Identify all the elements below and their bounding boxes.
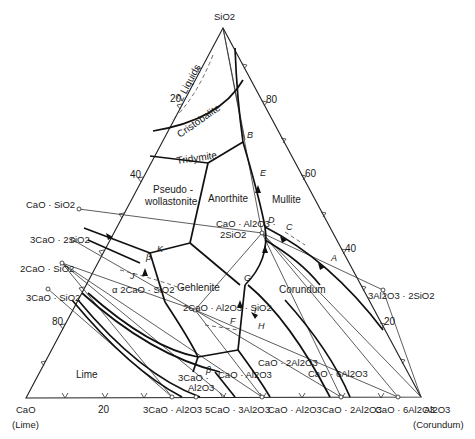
field-gehlenite-label: Gehlenite xyxy=(177,282,220,293)
point-f-label: F xyxy=(230,316,236,326)
right-tick-40: 40 xyxy=(345,243,357,254)
point-h-label: H xyxy=(258,321,265,331)
tie-lines xyxy=(48,28,421,397)
vertex-al2o3-sublabel: (Corundum) xyxy=(413,419,464,430)
point-g-label: G xyxy=(244,273,251,283)
field-2-liquids-label: 2 Liquids xyxy=(174,62,203,103)
point-k-label: K xyxy=(157,244,164,254)
boundary-arrows xyxy=(106,185,325,319)
compound-c3s-label: 3CaO · SiO2 xyxy=(26,292,80,303)
point-beta-upper-label: β xyxy=(145,252,151,262)
triangle-outline xyxy=(26,28,421,398)
compound-c2s-label: 2CaO · SiO2 xyxy=(20,263,74,274)
vertex-sio2-label: SiO2 xyxy=(214,11,235,22)
ternary-phase-diagram: SiO2 CaO (Lime) Al2O3 (Corundum) 20 40 8… xyxy=(0,0,475,439)
right-tick-60: 60 xyxy=(305,168,317,179)
inner-c3a-label-2: Al2O3 xyxy=(188,382,214,393)
compound-mullite-label: 3Al2O3 · 2SiO2 xyxy=(368,290,435,301)
inner-ca6-label: CaO · 6Al2O3 xyxy=(308,368,368,379)
compound-anorthite-label-2: 2SiO2 xyxy=(220,229,246,240)
compound-ca6-label: CaO · 6Al2O3 xyxy=(375,404,435,415)
field-corundum-label: Corundum xyxy=(279,284,326,295)
compound-c3a-label: 3CaO · Al2O3 xyxy=(143,404,202,415)
point-e-label: E xyxy=(260,168,267,178)
point-b-label: B xyxy=(247,130,253,140)
vertex-cao-sublabel: (Lime) xyxy=(12,419,39,430)
compound-gehlenite-label: 2CaO · Al2O3 · SiO2 xyxy=(183,302,272,313)
field-tridymite-label: Tridymite xyxy=(176,149,218,166)
point-beta-lower-label: β xyxy=(205,365,211,375)
point-c-label: C xyxy=(286,222,293,232)
compound-c3s2-label: 3CaO · 2SiO2 xyxy=(30,234,90,245)
point-d-label: D xyxy=(268,215,275,225)
compound-cs-label: CaO · SiO2 xyxy=(26,199,75,210)
inner-ca2-label: CaO · 2Al2O3 xyxy=(258,357,318,368)
point-a-label: A xyxy=(330,253,337,263)
field-pseudowollastonite-label-1: Pseudo - xyxy=(153,184,193,195)
field-lime-label: Lime xyxy=(76,369,98,380)
field-mullite-label: Mullite xyxy=(272,194,301,205)
left-tick-80: 80 xyxy=(52,316,64,327)
vertex-cao-label: CaO xyxy=(16,404,36,415)
right-tick-80: 80 xyxy=(266,94,278,105)
point-j-label: J xyxy=(129,271,135,281)
compound-alpha-c2s-label: α 2CaO · SiO2 xyxy=(112,284,175,295)
field-pseudowollastonite-label-2: wollastonite xyxy=(144,196,198,207)
left-tick-40: 40 xyxy=(130,169,142,180)
field-cristobalite-label: Cristobalite xyxy=(175,102,223,140)
compound-ca-label: CaO · Al2O3 xyxy=(268,404,322,415)
right-tick-20: 20 xyxy=(384,316,396,327)
field-anorthite-label: Anorthite xyxy=(208,193,248,204)
compound-anorthite-label-1: CaO · Al2O3 · xyxy=(216,218,276,229)
compound-ca2-label: CaO · 2Al2O3 xyxy=(322,404,382,415)
compound-c5a3-label: 5CaO · 3Al2O3 xyxy=(205,404,270,415)
inner-ca-label: CaO · Al2O3 xyxy=(218,369,272,380)
bottom-tick-20: 20 xyxy=(98,404,110,415)
